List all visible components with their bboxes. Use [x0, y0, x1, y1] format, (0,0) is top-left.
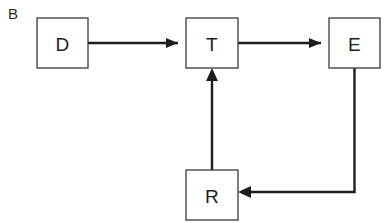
node-t[interactable]: T [186, 18, 238, 68]
diagram-canvas: B D [0, 0, 384, 223]
arrowhead-into-r-from-e-icon [238, 186, 251, 198]
nodes-layer: D T E R [37, 18, 380, 220]
edge-r-to-t [206, 68, 218, 170]
edge-d-to-t [88, 38, 178, 48]
diagram-svg: B D [0, 0, 384, 223]
node-r[interactable]: R [186, 170, 238, 220]
node-e[interactable]: E [329, 18, 380, 68]
node-r-label: R [205, 186, 219, 207]
arrowhead-into-e-from-t-icon [309, 38, 321, 48]
edge-e-to-r [238, 68, 355, 198]
arrowhead-into-t-from-d-icon [166, 38, 178, 48]
node-d[interactable]: D [37, 18, 88, 68]
node-d-label: D [56, 34, 70, 55]
node-t-label: T [206, 34, 218, 55]
edge-e-to-r-line [246, 68, 355, 192]
panel-label-b: B [8, 5, 18, 22]
edge-t-to-e [238, 38, 321, 48]
arrowhead-into-t-from-r-icon [206, 68, 218, 81]
node-e-label: E [348, 34, 361, 55]
